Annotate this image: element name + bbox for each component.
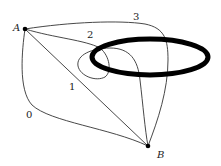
path-2-label: 2 xyxy=(87,29,93,40)
vertex-a-label: A xyxy=(12,22,20,33)
path-0-label: 0 xyxy=(26,109,32,120)
path-3-label: 3 xyxy=(133,11,139,22)
path-1-curve xyxy=(25,29,148,146)
path-1-label: 1 xyxy=(69,81,75,92)
vertex-a-dot xyxy=(23,27,28,32)
obstacle-ellipse xyxy=(92,39,208,75)
vertex-b-label: B xyxy=(156,149,164,160)
vertex-b-dot xyxy=(146,144,151,149)
diagram-canvas: A B 0 1 2 3 xyxy=(0,0,221,166)
